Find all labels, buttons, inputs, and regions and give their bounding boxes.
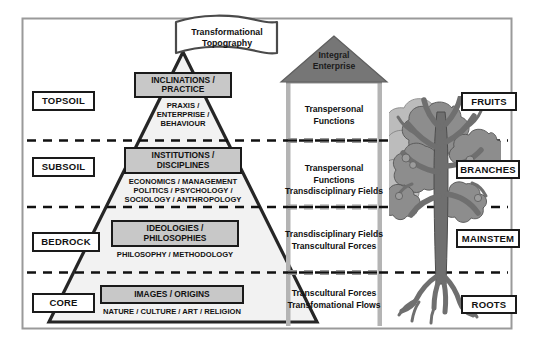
house-level-1-text: Transpersonal Functions	[285, 104, 383, 127]
pyramid-box-images: IMAGES / ORIGINS	[100, 285, 244, 304]
tree-label-mainstem-text: MAINSTEM	[462, 234, 514, 244]
house-level-4-text: Transcultural Forces Transfomational Flo…	[285, 288, 383, 311]
pyramid-box-inclinations-line2: PRACTICE	[162, 85, 205, 94]
soil-label-subsoil: SUBSOIL	[32, 157, 95, 177]
diagram-canvas: Transformational Topography Integral Ent…	[0, 0, 533, 346]
pyramid-box-ideologies: IDEOLOGIES / PHILOSOPHIES	[111, 220, 239, 247]
tree-label-fruits: FRUITS	[461, 92, 517, 111]
pyramid-sub-images: NATURE / CULTURE / ART / RELIGION	[78, 308, 266, 317]
pyramid-box-inclinations: INCLINATIONS / PRACTICE	[134, 72, 232, 98]
tree-label-roots-text: ROOTS	[472, 300, 507, 310]
pyramid-box-ideologies-line2: PHILOSOPHIES	[144, 234, 207, 243]
soil-label-bedrock: BEDROCK	[32, 232, 100, 252]
pyramid-box-images-line1: IMAGES / ORIGINS	[134, 290, 209, 299]
house-level-3-line-2: Transcultural Forces	[285, 241, 383, 253]
house-roof-label: Integral Enterprise	[299, 50, 369, 71]
house-level-1-line-1: Transpersonal Functions	[285, 104, 383, 127]
pyramid-sub-images-line1: NATURE / CULTURE / ART / RELIGION	[78, 308, 266, 317]
soil-label-bedrock-text: BEDROCK	[41, 237, 90, 247]
banner-line-1: Transformational	[180, 27, 274, 38]
soil-label-subsoil-text: SUBSOIL	[42, 162, 86, 172]
tree-label-branches-text: BRANCHES	[460, 165, 515, 175]
tree-label-fruits-text: FRUITS	[471, 97, 507, 107]
house-level-2-line-2: Transdisciplinary Fields	[285, 186, 383, 198]
tree-label-roots: ROOTS	[461, 295, 517, 314]
tree-label-mainstem: MAINSTEM	[456, 229, 520, 248]
tree-label-branches: BRANCHES	[456, 160, 520, 179]
house-level-3-line-1: Transdisciplinary Fields	[285, 229, 383, 241]
banner-label: Transformational Topography	[180, 27, 274, 48]
pyramid-sub-ideologies: PHILOSOPHY / METHODOLOGY	[93, 251, 257, 260]
pyramid-sub-praxis: PRAXIS / ENTERPRISE / BEHAVIOUR	[133, 102, 233, 129]
house-level-2-text: Transpersonal Functions Transdisciplinar…	[285, 163, 383, 198]
soil-label-topsoil-text: TOPSOIL	[42, 96, 85, 106]
pyramid-box-institutions: INSTITUTIONS / DISCIPLINES	[124, 147, 242, 174]
house-level-4-line-2: Transfomational Flows	[285, 300, 383, 312]
house-level-3-text: Transdisciplinary Fields Transcultural F…	[285, 229, 383, 252]
pyramid-sub-ideologies-line1: PHILOSOPHY / METHODOLOGY	[93, 251, 257, 260]
roof-line-2: Enterprise	[299, 61, 369, 72]
soil-label-core: CORE	[32, 293, 95, 313]
pyramid-sub-institutions: ECONOMICS / MANAGEMENT POLITICS / PSYCHO…	[101, 178, 265, 205]
soil-label-topsoil: TOPSOIL	[32, 91, 95, 111]
house-level-4-line-1: Transcultural Forces	[285, 288, 383, 300]
soil-label-core-text: CORE	[49, 298, 77, 308]
roof-line-1: Integral	[299, 50, 369, 61]
pyramid-sub-praxis-line3: BEHAVIOUR	[133, 120, 233, 129]
banner-line-2: Topography	[180, 38, 274, 49]
house-level-2-line-1: Transpersonal Functions	[285, 163, 383, 186]
pyramid-box-institutions-line2: DISCIPLINES	[157, 161, 210, 170]
pyramid-sub-institutions-line3: SOCIOLOGY / ANTHROPOLOGY	[101, 196, 265, 205]
